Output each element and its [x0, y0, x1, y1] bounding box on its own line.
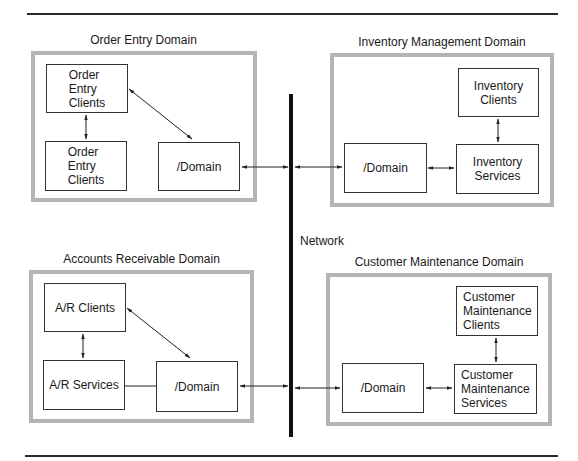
ar-clients-to-domain-arrow	[127, 308, 190, 358]
connector-arrows	[0, 0, 578, 461]
oe-clients-to-domain-arrow	[129, 89, 192, 139]
